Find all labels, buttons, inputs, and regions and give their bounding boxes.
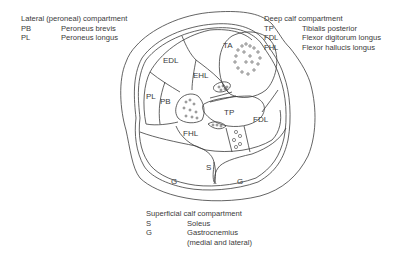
- label-gastrocnemius-left: G: [171, 177, 177, 186]
- tibia-marrow-dots: [234, 43, 261, 75]
- soleus-lower-boundary-left: [140, 132, 214, 182]
- label-ehl: EHL: [193, 71, 209, 80]
- label-fhl: FHL: [183, 129, 199, 138]
- fibula-marrow-dots: [183, 99, 198, 119]
- label-pb: PB: [160, 97, 171, 106]
- label-pl: PL: [146, 92, 156, 101]
- label-edl: EDL: [163, 56, 179, 65]
- label-tp: TP: [224, 108, 234, 117]
- leg-cross-section-diagram: TA EDL EHL PL PB TP FDL FHL S G G: [0, 0, 417, 256]
- tibial-nerve-dots: [232, 130, 241, 148]
- fibula-bone: [176, 94, 204, 123]
- anterior-compartment-boundary: [150, 30, 252, 72]
- label-fdl: FDL: [253, 115, 269, 124]
- label-soleus: S: [206, 163, 211, 172]
- label-ta: TA: [223, 41, 233, 50]
- label-gastrocnemius-right: G: [237, 177, 243, 186]
